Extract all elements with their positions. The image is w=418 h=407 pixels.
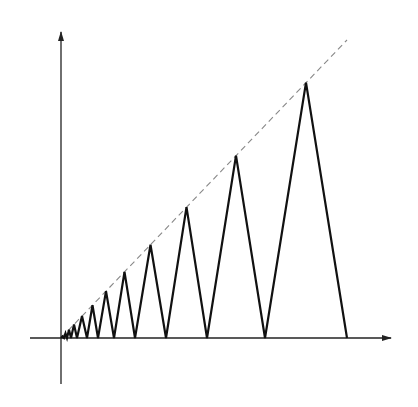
diagram-canvas — [0, 0, 418, 407]
envelope-dashed-line — [61, 40, 347, 338]
sawtooth-wave — [61, 83, 347, 338]
